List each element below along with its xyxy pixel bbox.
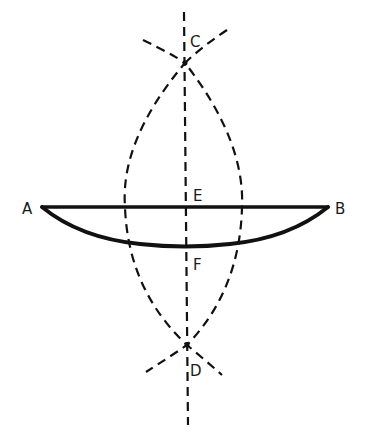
point-c-marker <box>183 61 188 66</box>
construction-diagram: A B C D E F <box>0 0 371 437</box>
label-d: D <box>190 362 202 380</box>
bisector-line <box>184 12 188 425</box>
label-e: E <box>193 187 202 205</box>
point-d-marker <box>185 343 190 348</box>
label-c: C <box>190 33 200 51</box>
label-f: F <box>193 256 202 274</box>
label-b: B <box>335 200 345 218</box>
label-a: A <box>22 200 33 218</box>
